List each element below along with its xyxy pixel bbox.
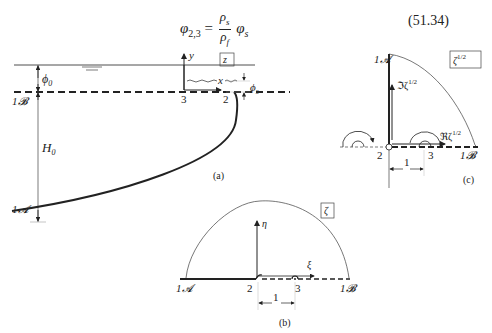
label-1A: 1𝓐: [374, 53, 394, 65]
point-3-label: 3: [295, 282, 301, 294]
panel-a: ϕ0 1𝓑 H0 1𝓐 y x ϕs 3 2 z (a): [12, 49, 290, 222]
im-label: ℑζ1/2: [397, 78, 418, 92]
re-label: ℜζ1/2: [440, 129, 462, 143]
z-plane-label: z: [222, 54, 227, 65]
label-1B: 1𝓑: [460, 149, 478, 161]
xi-label: ξ: [307, 259, 312, 271]
caption-b: (b): [279, 317, 291, 329]
figure-canvas: ϕ0 1𝓑 H0 1𝓐 y x ϕs 3 2 z (a) ℑζ1/2: [0, 0, 492, 333]
point-3-label: 3: [181, 93, 187, 105]
label-1A: 1𝓐: [176, 282, 196, 294]
origin-point-2: [386, 144, 392, 150]
caption-c: (c): [463, 174, 474, 186]
phis-label: ϕs: [250, 81, 259, 96]
eta-label: η: [262, 218, 267, 229]
panel-b: η ξ 1𝓐 2 3 1𝓑 1 ζ (b): [176, 201, 358, 329]
H0-label: H0: [41, 140, 55, 157]
wavy-sheet-line: [187, 80, 217, 82]
y-axis-label: y: [188, 49, 194, 61]
caption-a: (a): [213, 170, 224, 182]
zeta-half-plane-label: ζ1/2: [453, 53, 467, 67]
panel-c: ℑζ1/2 ℜζ1/2 1𝓐 2 3 1𝓑 1 ζ1/2 (c): [340, 51, 481, 188]
unit-length-label: 1: [273, 291, 279, 303]
branch-arc-left: [352, 141, 364, 147]
x-axis-label: x: [217, 74, 223, 86]
label-1B: 1𝓑: [12, 95, 30, 107]
phi0-label: ϕ0: [42, 72, 52, 88]
zeta-plane-label: ζ: [324, 205, 329, 217]
unit-length-label: 1: [404, 156, 410, 168]
point-2-label: 2: [223, 93, 229, 105]
point-2-label: 2: [247, 282, 253, 294]
label-1B: 1𝓑: [340, 282, 358, 294]
point-3-label: 3: [428, 149, 434, 161]
point-2-label: 2: [377, 149, 383, 161]
